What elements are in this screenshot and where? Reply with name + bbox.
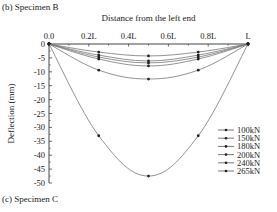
x-tick-label: 0.4L [121,31,137,41]
y-tick-label: -40 [34,150,45,160]
y-tick-label: -50 [34,178,45,188]
y-tick-label: 0 [41,39,45,49]
legend-marker [225,170,228,173]
legend-marker [225,162,228,165]
data-point [147,55,150,58]
y-tick-label: -30 [34,122,45,132]
data-point [197,134,200,137]
data-point [97,69,100,72]
legend-label-265kN: 265kN [237,166,260,176]
x-tick-label: 0.8L [200,31,216,41]
y-tick-label: -15 [34,81,45,91]
data-point [247,43,250,46]
y-tick-label: -25 [34,109,45,119]
series-line-100kN [49,44,248,56]
legend-marker [225,137,228,140]
y-tick-label: -45 [34,164,45,174]
x-tick-label: 0.6L [160,31,176,41]
data-point [147,175,150,178]
data-point [147,78,150,81]
x-tick-label: L [245,31,250,41]
x-tick-label: 0.0 [44,31,55,41]
data-point [97,51,100,54]
y-tick-label: -20 [34,95,45,105]
data-point [147,65,150,68]
y-tick-label: -5 [38,53,45,63]
x-tick-label: 0.2L [81,31,97,41]
data-point [197,58,200,61]
data-point [197,69,200,72]
data-point [197,51,200,54]
legend-marker [225,153,228,156]
y-tick-label: -10 [34,67,45,77]
data-point [48,43,51,46]
data-point [97,58,100,61]
data-point [147,62,150,65]
y-axis-label: Deflection (mm) [6,83,16,143]
legend-marker [225,129,228,132]
caption-specimen-c: (c) Specimen C [2,194,58,204]
y-tick-label: -35 [34,136,45,146]
legend-marker [225,145,228,148]
data-point [97,134,100,137]
x-axis-label: Distance from the left end [102,13,196,23]
deflection-chart: Distance from the left end0.00.2L0.4L0.6… [0,0,277,212]
